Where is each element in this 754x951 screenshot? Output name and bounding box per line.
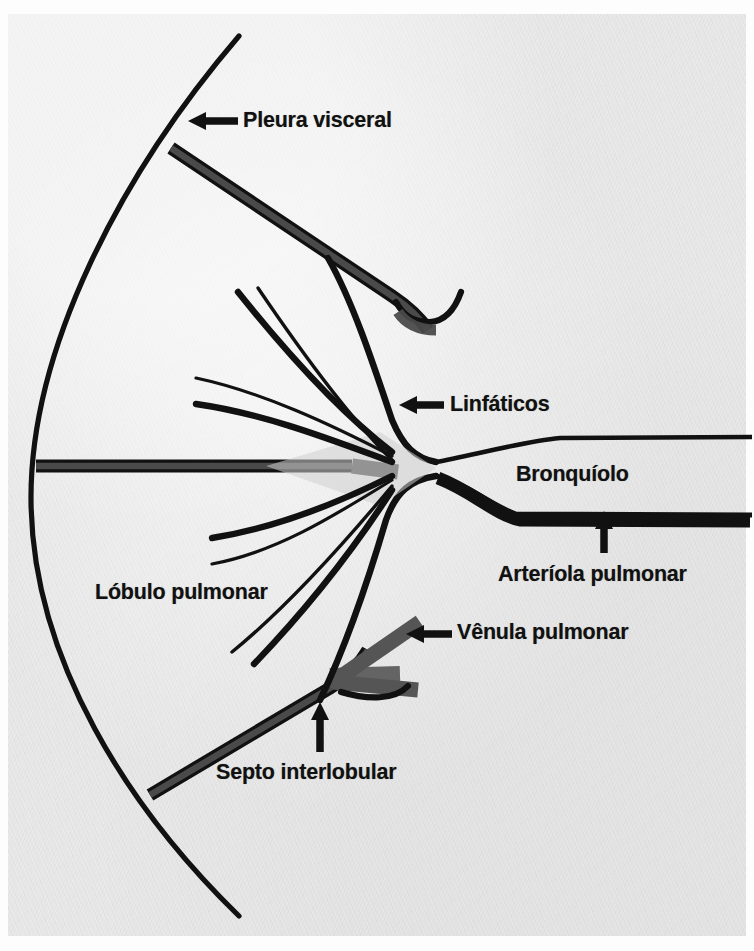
label-arteriola-pulmonar: Arteríola pulmonar	[498, 562, 687, 587]
venula-pulmonar	[330, 622, 420, 690]
arrow-septo-interlobular	[311, 702, 329, 752]
arrow-linfaticos	[399, 396, 444, 414]
bronchiole-lumen-top	[436, 437, 752, 462]
label-venula-pulmonar: Vênula pulmonar	[457, 620, 628, 645]
lung-lobule-diagram	[0, 0, 754, 951]
septum-upper	[171, 148, 428, 330]
label-pleura-visceral: Pleura visceral	[243, 108, 392, 133]
arrow-pleura-visceral	[188, 112, 238, 130]
label-linfaticos: Linfáticos	[450, 392, 550, 417]
label-bronquiolo: Bronquíolo	[516, 462, 629, 487]
label-lobulo-pulmonar: Lóbulo pulmonar	[95, 580, 268, 605]
figure-canvas: Pleura visceral Linfáticos Bronquíolo Ar…	[0, 0, 754, 951]
label-septo-interlobular: Septo interlobular	[216, 760, 396, 785]
